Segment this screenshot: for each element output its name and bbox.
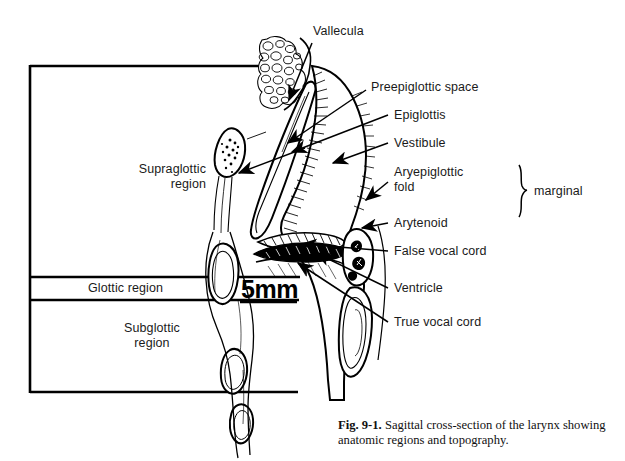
marginal-brace-path	[519, 165, 527, 217]
subglottic-region-label: Subglottic region	[92, 321, 212, 350]
preepiglottic-space-label: Preepiglottic space	[371, 80, 479, 95]
marginal-label: marginal	[534, 184, 583, 199]
leader-aryepiglottic-fold	[366, 182, 388, 200]
larynx-illustration	[0, 0, 625, 461]
glottic-region-label: Glottic region	[88, 281, 228, 296]
vallecula-label: Vallecula	[313, 24, 364, 39]
leader-arytenoid	[362, 223, 388, 228]
ventricle-label: Ventricle	[394, 281, 443, 296]
hyoid-bone	[214, 128, 245, 233]
true-vocal-cord-label: True vocal cord	[394, 315, 481, 330]
false-vocal-cord-label: False vocal cord	[394, 244, 487, 259]
aryepiglottic-fold-label: Aryepiglottic fold	[394, 165, 463, 194]
figure-number: Fig. 9-1.	[338, 418, 382, 432]
arytenoid-label: Arytenoid	[394, 216, 448, 231]
posterior-pharyngeal-wall	[378, 226, 385, 360]
scale-5mm-label: 5mm	[241, 277, 298, 302]
marginal-brace	[519, 165, 527, 217]
epiglottis-label: Epiglottis	[394, 108, 446, 123]
vestibule-label: Vestibule	[394, 136, 446, 151]
figure-caption: Fig. 9-1. Sagittal cross-section of the …	[338, 418, 618, 448]
larynx-figure: Supraglottic region Glottic region Subgl…	[0, 0, 625, 461]
supraglottic-region-label: Supraglottic region	[88, 162, 206, 191]
